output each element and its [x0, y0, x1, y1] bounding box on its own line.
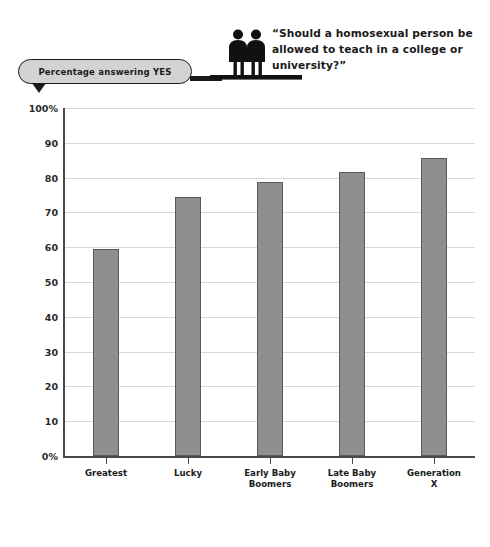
y-axis-tick-label: 40 [8, 311, 58, 322]
x-axis-tick [352, 457, 353, 464]
survey-question-text: “Should a homosexual person be allowed t… [272, 25, 490, 73]
x-axis-line [63, 456, 475, 458]
x-axis-label-generation-x: GenerationX [389, 468, 479, 490]
x-axis-label-late-baby-boomers: Late BabyBoomers [307, 468, 397, 490]
x-axis-label-lucky: Lucky [143, 468, 233, 479]
y-axis-tick-label: 20 [8, 381, 58, 392]
x-axis-tick [270, 457, 271, 464]
y-axis-tick-label: 100% [8, 103, 58, 114]
y-axis-tick-label: 10 [8, 416, 58, 427]
plot-area: 0%102030405060708090100% GreatestLuckyEa… [0, 100, 490, 547]
y-axis-tick-label: 90 [8, 137, 58, 148]
bar-early-baby-boomers [257, 182, 283, 456]
bar-late-baby-boomers [339, 172, 365, 456]
bar-lucky [175, 197, 201, 456]
y-axis-tick-label: 80 [8, 172, 58, 183]
y-axis-tick-label: 60 [8, 242, 58, 253]
gridline [65, 143, 475, 144]
y-axis-tick-label: 50 [8, 277, 58, 288]
chart-figure: Percentage answering YES “Should a homos… [0, 0, 490, 547]
percentage-badge: Percentage answering YES [18, 59, 192, 84]
y-axis-tick-label: 30 [8, 346, 58, 357]
x-axis-tick [434, 457, 435, 464]
gridline [65, 178, 475, 179]
gridline [65, 108, 475, 109]
badge-pointer-triangle [32, 83, 46, 93]
x-axis-label-greatest: Greatest [61, 468, 151, 479]
x-axis-tick [188, 457, 189, 464]
percentage-badge-label: Percentage answering YES [38, 67, 171, 77]
x-axis-tick [106, 457, 107, 464]
chart-header: Percentage answering YES “Should a homos… [0, 0, 490, 100]
y-axis-tick-label: 70 [8, 207, 58, 218]
bar-greatest [93, 249, 119, 456]
x-axis-label-early-baby-boomers: Early BabyBoomers [225, 468, 315, 490]
y-axis-tick-label: 0% [8, 451, 58, 462]
bar-generation-x [421, 158, 447, 456]
